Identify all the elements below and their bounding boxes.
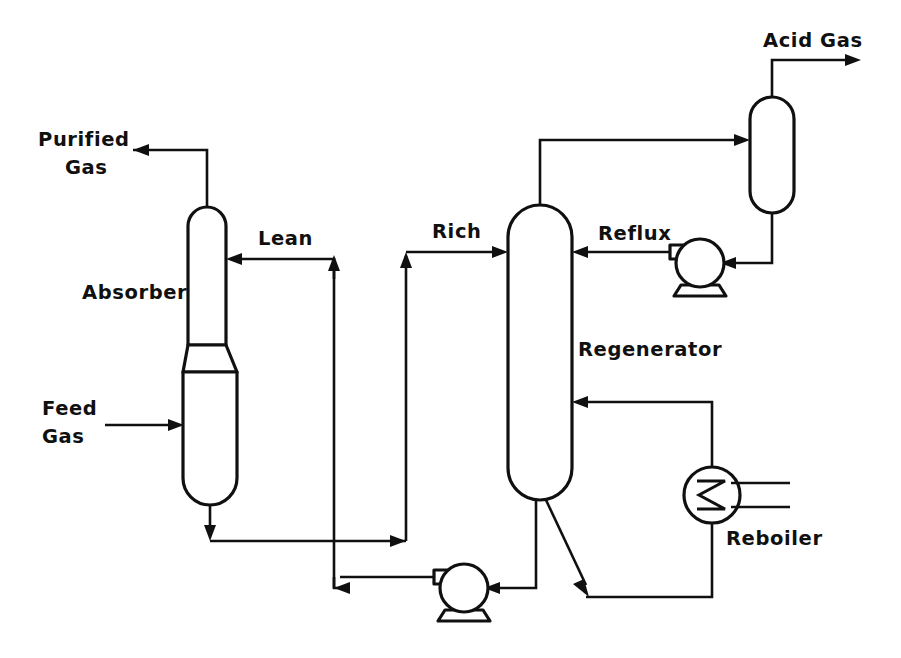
purified-gas-line (133, 150, 207, 208)
regenerator-vessel (508, 205, 572, 500)
reboiler-vapor-return-stream (572, 396, 712, 467)
feed-gas-stream (105, 419, 184, 431)
lean-solvent-pump (434, 564, 490, 621)
purified-gas-arrowhead (133, 144, 149, 156)
regenerator-label: Regenerator (578, 338, 722, 361)
feed-gas-label-line1: Feed (42, 397, 97, 420)
reflux-drum-outlet-stream (720, 213, 772, 269)
lean-return-downcomer (490, 500, 536, 588)
reflux-drum-outlet-line (726, 213, 772, 263)
lean-pump-casing (440, 564, 488, 612)
lean-solvent-line (232, 259, 334, 279)
reboiler-liquid-loop-stream (546, 500, 712, 597)
reflux-drum-vessel (750, 97, 794, 213)
purified-gas-stream (133, 144, 207, 208)
overhead-vapor-line (540, 140, 744, 205)
regenerator-bottom-drawoff-diagonal (546, 500, 586, 585)
regenerator-shell (508, 205, 572, 500)
reflux-pump-casing (676, 239, 724, 287)
acid-gas-arrowhead (845, 54, 861, 66)
rich-solvent-stream (204, 246, 508, 547)
lean-solvent-stream (226, 253, 340, 588)
absorber-upper-shell (188, 207, 226, 345)
acid-gas-stream (772, 54, 861, 97)
lean-riser-corner-arrowhead (334, 582, 350, 594)
absorber-vessel (183, 207, 237, 505)
reboiler-vapor-return-arrowhead (572, 396, 588, 408)
overhead-vapor-arrowhead (734, 134, 750, 146)
reflux-arrowhead (572, 246, 588, 258)
pfd-canvas: Purified Gas Feed Gas Absorber Lean Rich… (0, 0, 901, 658)
lean-riser-corner (334, 577, 350, 594)
regenerator-drawoff-arrowhead (573, 579, 589, 597)
reboiler-shell (684, 467, 740, 523)
rich-up-arrowhead (400, 252, 412, 268)
reflux-stream (572, 246, 670, 258)
rich-label: Rich (432, 220, 482, 243)
process-flow-diagram: Purified Gas Feed Gas Absorber Lean Rich… (0, 0, 901, 658)
overhead-vapor-stream (540, 134, 750, 205)
reboiler (684, 467, 790, 523)
reboiler-vapor-return-line (578, 402, 712, 467)
rich-into-regen-arrowhead (492, 246, 508, 258)
feed-gas-label-line2: Gas (42, 425, 85, 448)
reflux-drum-shell (750, 97, 794, 213)
acid-gas-label: Acid Gas (763, 29, 863, 52)
reboiler-liquid-loop-line (586, 523, 712, 597)
rich-down-arrowhead (204, 525, 216, 541)
lean-solvent-arrowhead (226, 253, 242, 265)
rich-right-arrowhead (390, 535, 406, 547)
purified-gas-label-line2: Gas (65, 156, 108, 179)
absorber-label: Absorber (82, 281, 187, 304)
lean-label: Lean (258, 227, 313, 250)
lean-solvent-return-stream (484, 500, 536, 594)
acid-gas-line (772, 60, 855, 97)
reflux-pump (670, 239, 726, 296)
absorber-lower-shell (183, 372, 237, 505)
purified-gas-label-line1: Purified (38, 128, 130, 151)
absorber-taper (183, 345, 237, 372)
reflux-label: Reflux (598, 222, 671, 245)
reboiler-label: Reboiler (726, 527, 823, 550)
